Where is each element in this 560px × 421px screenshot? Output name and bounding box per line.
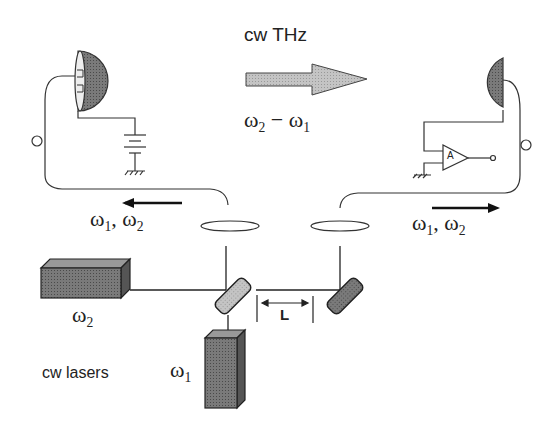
right-beam-label: ω1, ω2: [412, 210, 466, 239]
difference-frequency-label: ω2 − ω1: [244, 107, 310, 136]
thz-photomixing-diagram: cw THz ω2 − ω1 ω1, ω2 ω1, ω2 ω2 ω1 cw la…: [0, 0, 560, 421]
left-mirror-icon: [213, 276, 253, 316]
laser-omega1-icon: [205, 330, 245, 408]
diagram-graphics: [0, 0, 560, 421]
laser-omega2-icon: [41, 259, 130, 298]
left-lens-icon: [201, 221, 259, 231]
amplifier-label: A: [447, 150, 454, 161]
bias-battery-icon: [78, 111, 146, 175]
right-lens-icon: [311, 221, 369, 231]
emitter-antenna-icon: [75, 51, 108, 111]
laser-omega2-label: ω2: [72, 302, 93, 331]
left-beam-label: ω1, ω2: [90, 206, 144, 235]
amplifier-icon: [413, 110, 503, 178]
diagram-title: cw THz: [244, 24, 307, 46]
detector-antenna-icon: [487, 58, 503, 107]
right-mirror-icon: [325, 276, 365, 316]
thz-arrow-icon: [246, 64, 367, 95]
cw-lasers-label: cw lasers: [42, 364, 109, 382]
laser-omega1-label: ω1: [170, 357, 191, 386]
delay-length-label: L: [280, 306, 289, 323]
